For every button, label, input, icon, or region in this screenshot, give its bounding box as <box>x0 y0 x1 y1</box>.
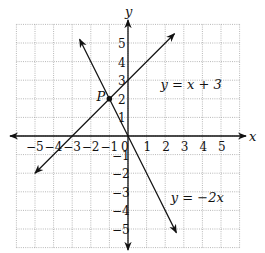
y-tick-label: −3 <box>112 186 130 200</box>
y-tick-label: −2 <box>112 167 130 181</box>
x-tick-label: −2 <box>82 140 100 154</box>
x-tick-label: 1 <box>144 140 152 154</box>
y-tick-label: 5 <box>118 37 126 51</box>
x-axis-label: x <box>249 129 257 144</box>
x-tick-label: 4 <box>199 140 207 154</box>
equation-label-1: y = x + 3 <box>160 77 222 92</box>
x-tick-label: 2 <box>162 140 170 154</box>
point-p-label: P <box>95 89 105 104</box>
x-tick-label: 5 <box>218 140 226 154</box>
tick-labels: −5−4−3−2−101234554321−1−2−3−4−5 <box>26 37 226 237</box>
axes: xy <box>10 4 257 250</box>
y-axis-label: y <box>124 4 133 19</box>
x-tick-label: −5 <box>26 140 44 154</box>
y-tick-label: −5 <box>112 223 130 237</box>
y-tick-label: −1 <box>112 149 130 163</box>
graph-lines <box>35 34 176 233</box>
y-tick-label: −4 <box>112 204 130 218</box>
y-tick-label: 4 <box>118 56 126 70</box>
point-p-marker <box>107 96 113 102</box>
y-tick-label: 2 <box>118 93 126 107</box>
equation-label-2: y = −2x <box>170 190 225 205</box>
x-tick-label: 3 <box>181 140 189 154</box>
x-tick-label: −4 <box>45 140 63 154</box>
coordinate-plane: xy −5−4−3−2−101234554321−1−2−3−4−5 Py = … <box>0 0 265 253</box>
